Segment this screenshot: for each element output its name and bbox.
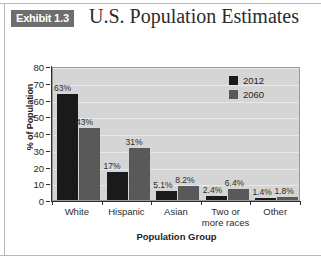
bar-2012-hispanic (107, 172, 128, 200)
y-tick-label: 70 (16, 80, 44, 89)
chart-legend: 20122060 (229, 74, 291, 102)
bar-2060-white (79, 128, 100, 200)
legend-label: 2060 (243, 90, 264, 100)
figure-header: Exhibit 1.3 U.S. Population Estimates (11, 8, 311, 58)
x-tick-mark (201, 201, 202, 205)
figure-top-rule (0, 3, 321, 4)
x-axis-title: Population Group (52, 231, 301, 242)
figure-left-rule (4, 3, 5, 255)
bar-2012-white (57, 94, 78, 200)
exhibit-figure: Exhibit 1.3 U.S. Population Estimates % … (0, 0, 321, 266)
category-label: Two or more races (201, 206, 251, 228)
category-label: Other (250, 206, 300, 217)
bar-value-label: 8.2% (175, 176, 194, 185)
y-tick-label: 60 (16, 97, 44, 106)
bar-2012-asian (156, 191, 177, 200)
y-tick-label: 0 (16, 197, 44, 206)
y-tick-mark (46, 168, 50, 169)
y-tick-label: 30 (16, 147, 44, 156)
y-tick-mark (46, 101, 50, 102)
figure-title: U.S. Population Estimates (89, 5, 309, 28)
y-tick-label: 40 (16, 130, 44, 139)
bar-value-label: 2.4% (203, 186, 222, 195)
legend-item: 2060 (229, 88, 291, 101)
legend-swatch-icon (229, 76, 238, 85)
bar-value-label: 43% (76, 118, 93, 127)
bar-2060-asian (178, 186, 199, 200)
y-tick-label: 20 (16, 164, 44, 173)
bar-value-label: 1.8% (274, 187, 293, 196)
bar-value-label: 63% (54, 84, 71, 93)
y-tick-label: 80 (16, 63, 44, 72)
category-label: White (52, 206, 102, 217)
bar-2012-other (255, 198, 276, 200)
x-tick-mark (151, 201, 152, 205)
bar-2012-two-or-more-races (206, 196, 227, 200)
legend-item: 2012 (229, 74, 291, 87)
bar-2060-two-or-more-races (228, 189, 249, 200)
bar-value-label: 17% (104, 162, 121, 171)
y-tick-mark (46, 117, 50, 118)
bar-chart: % of Population 01020304050607080 63%43%… (10, 64, 305, 239)
category-label: Asian (151, 206, 201, 217)
y-tick-mark (46, 184, 50, 185)
y-tick-label: 50 (16, 113, 44, 122)
category-labels: WhiteHispanicAsianTwo or more racesOther (52, 206, 301, 232)
bar-group: 63%43% (53, 68, 103, 200)
x-tick-mark (102, 201, 103, 205)
y-tick-mark (46, 201, 50, 202)
bar-value-label: 6.4% (225, 179, 244, 188)
legend-label: 2012 (243, 76, 264, 86)
figure-bottom-rule (0, 255, 321, 256)
x-tick-mark (250, 201, 251, 205)
legend-swatch-icon (229, 90, 238, 99)
y-tick-mark (46, 84, 50, 85)
y-tick-mark (46, 151, 50, 152)
bar-value-label: 5.1% (153, 181, 172, 190)
y-axis-ticks: 01020304050607080 (10, 64, 52, 201)
bar-2060-hispanic (129, 148, 150, 200)
y-tick-label: 10 (16, 180, 44, 189)
y-tick-mark (46, 67, 50, 68)
bar-value-label: 31% (126, 138, 143, 147)
plot-wrapper: 63%43%17%31%5.1%8.2%2.4%6.4%1.4%1.8% 201… (52, 67, 300, 201)
x-tick-mark (300, 201, 301, 205)
bar-value-label: 1.4% (252, 188, 271, 197)
y-tick-mark (46, 134, 50, 135)
plot-area: 63%43%17%31%5.1%8.2%2.4%6.4%1.4%1.8% 201… (52, 67, 300, 201)
exhibit-number-badge: Exhibit 1.3 (11, 10, 74, 27)
bar-group: 5.1%8.2% (152, 68, 202, 200)
x-tick-mark (52, 201, 53, 205)
category-label: Hispanic (102, 206, 152, 217)
bar-2060-other (277, 197, 298, 200)
bar-group: 17%31% (103, 68, 153, 200)
